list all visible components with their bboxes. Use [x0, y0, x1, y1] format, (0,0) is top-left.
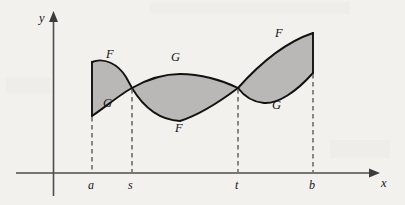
curve-label-f-right: F — [275, 27, 283, 40]
x-axis-arrowhead — [369, 169, 380, 178]
curve-label-f-middle: F — [175, 122, 183, 135]
figure-canvas: y x a s t b F G G F F G — [0, 0, 405, 205]
tick-label-b: b — [309, 179, 315, 191]
y-axis-arrowhead — [49, 11, 58, 22]
curve-label-g-middle: G — [171, 51, 180, 64]
curve-label-g-left: G — [103, 97, 112, 110]
curve-label-f-left: F — [106, 48, 114, 61]
y-axis-label: y — [39, 12, 45, 25]
tick-label-s: s — [128, 179, 133, 191]
plot-svg — [0, 0, 405, 205]
shaded-region-t-b — [238, 33, 313, 103]
curve-label-g-right: G — [272, 99, 281, 112]
tick-label-t: t — [235, 179, 238, 191]
x-axis-label: x — [381, 177, 387, 190]
tick-label-a: a — [88, 179, 94, 191]
